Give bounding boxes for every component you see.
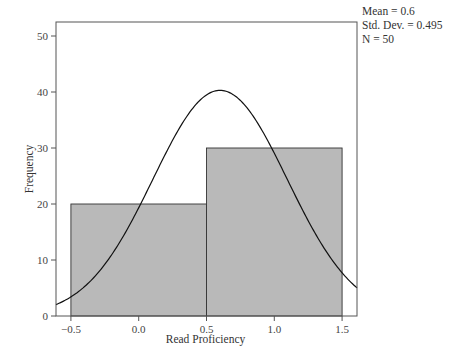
y-axis-ticks: 01020304050 (37, 30, 56, 322)
histogram-bar (71, 204, 207, 316)
x-tick-label: −0.5 (61, 323, 81, 335)
histogram-bars (71, 148, 342, 316)
stat-mean: Mean = 0.6 (362, 4, 443, 18)
histogram-chart: 01020304050 −0.50.00.51.01.5 Read Profic… (0, 0, 453, 364)
histogram-bar (207, 148, 343, 316)
y-tick-label: 40 (37, 86, 49, 98)
stats-box: Mean = 0.6 Std. Dev. = 0.495 N = 50 (362, 4, 443, 46)
x-axis-label: Read Proficiency (166, 333, 246, 346)
y-tick-label: 30 (37, 142, 49, 154)
x-tick-label: 0.0 (132, 323, 146, 335)
y-axis-label: Frequency (23, 144, 36, 193)
stat-n: N = 50 (362, 32, 443, 46)
y-tick-label: 50 (37, 30, 49, 42)
x-tick-label: 1.5 (335, 323, 349, 335)
stat-std-dev: Std. Dev. = 0.495 (362, 18, 443, 32)
y-tick-label: 10 (37, 254, 49, 266)
x-tick-label: 1.0 (267, 323, 281, 335)
y-tick-label: 0 (43, 310, 49, 322)
y-tick-label: 20 (37, 198, 49, 210)
